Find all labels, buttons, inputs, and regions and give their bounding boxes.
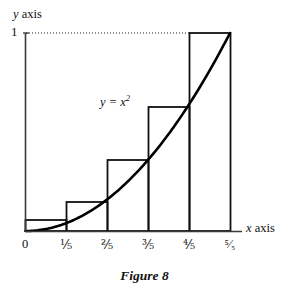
x-tick-label-5: ⁵⁄₅: [225, 237, 236, 252]
x-axis-label-text: axis: [252, 221, 275, 235]
y-axis-label: y axis: [13, 8, 42, 21]
y-axis-tick-label-1: 1: [11, 25, 18, 38]
x-tick-label-0: 0: [22, 237, 28, 252]
figure-8-riemann-sum: y axis x axis 1 y = x2 0 ⅕ ⅖ ⅗ ⅘ ⁵⁄₅ Fig…: [0, 0, 289, 291]
riemann-rect-2: [67, 202, 108, 231]
x-tick-label-4: ⅘: [183, 237, 195, 253]
curve-equation-label: y = x2: [100, 94, 130, 109]
y-axis-label-text: axis: [19, 7, 42, 21]
x-tick-label-3: ⅗: [142, 237, 154, 253]
curve-equation-exponent: 2: [126, 93, 130, 103]
x-axis-label: x axis: [246, 222, 275, 235]
riemann-rect-4: [149, 107, 190, 231]
x-tick-label-1: ⅕: [60, 237, 72, 253]
x-tick-label-2: ⅖: [101, 237, 113, 253]
riemann-rect-5: [190, 33, 231, 231]
curve-equation-base: y = x: [100, 95, 126, 109]
parabola-curve: [26, 33, 231, 231]
figure-caption: Figure 8: [0, 268, 289, 284]
